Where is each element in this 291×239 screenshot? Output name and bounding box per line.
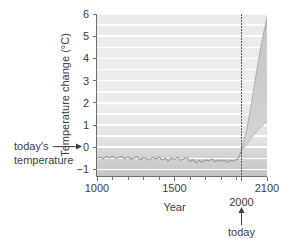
todays-temperature-line2: temperature	[14, 154, 73, 166]
x-tick-label-2100: 2100	[255, 182, 279, 194]
todays-temperature-arrow-head	[76, 144, 82, 150]
today-label: today	[228, 226, 255, 238]
plot-area	[97, 14, 267, 176]
x-axis-ticks	[97, 177, 267, 182]
todays-temperature-annotation: today's temperature	[14, 140, 82, 166]
y-tick-label-4: 4	[83, 52, 89, 64]
y-tick-label-0: 0	[83, 141, 89, 153]
y-tick-label-5: 5	[83, 30, 89, 42]
y-tick-label-6: 6	[83, 8, 89, 20]
y-tick-label-2: 2	[83, 97, 89, 109]
today-annotation: today	[228, 207, 255, 238]
y-tick-label-3: 3	[83, 75, 89, 87]
y-axis-title: Temperature change (°C)	[59, 33, 71, 157]
todays-temperature-line1: today's	[14, 140, 49, 152]
x-tick-label-1500: 1500	[162, 182, 186, 194]
temperature-change-chart: 6 5 4 3 2 1 0 −1 1000 1500 2000 2100 Yea…	[0, 0, 291, 239]
x-tick-label-2000: 2000	[229, 196, 253, 208]
y-axis-ticks	[93, 14, 97, 169]
y-tick-label-1: 1	[83, 119, 89, 131]
y-axis-tick-labels: 6 5 4 3 2 1 0 −1	[76, 8, 89, 175]
x-axis-title: Year	[163, 201, 186, 213]
y-tick-label-minus1: −1	[76, 163, 89, 175]
x-tick-label-1000: 1000	[85, 182, 109, 194]
